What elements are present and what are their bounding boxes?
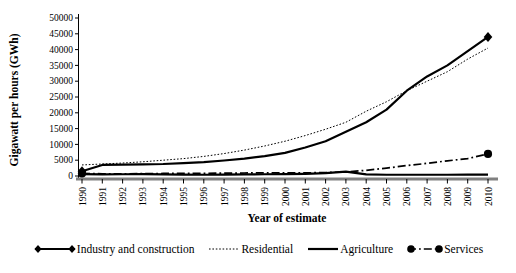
series-residential [82,48,488,165]
plot-area: 0500010000150002000025000300003500040000… [0,0,516,240]
legend-label-services: Services [444,243,483,255]
services-legend-circle-marker [407,245,415,253]
x-tick-label: 1995 [179,187,189,206]
x-tick-label: 2002 [321,187,331,206]
x-tick-label: 1998 [240,187,250,206]
x-tick-label: 1990 [78,187,88,206]
x-tick-label: 2009 [463,187,473,206]
legend-label-agriculture: Agriculture [340,243,393,255]
x-tick-label: 2007 [423,187,433,206]
x-tick-label: 1993 [138,187,148,206]
y-tick-label: 30000 [49,76,73,86]
y-tick-label: 10000 [49,140,73,150]
services-legend-dashdot-line-icon [406,243,444,255]
industry-and-construction-legend-diamond-marker [34,245,41,253]
series-services-circle-marker [484,150,492,158]
x-tick-label: 2006 [402,187,412,206]
legend-label-residential: Residential [241,243,293,255]
y-tick-label: 15000 [49,124,73,134]
legend: Industry and constructionResidentialAgri… [0,243,516,255]
series-industry-and-construction-diamond-marker [484,32,493,42]
residential-legend-dotted-line-icon [207,243,241,255]
series-agriculture-line [82,172,488,175]
x-tick-label: 2008 [443,187,453,206]
y-tick-labels: 0500010000150002000025000300003500040000… [49,13,78,181]
x-tick-label: 2001 [301,187,311,206]
x-tick-label: 1992 [118,187,128,206]
legend-item-services: Services [406,243,483,255]
chart-figure: Gigawatt per hours (GWh) 050001000015000… [0,0,516,273]
x-tick-label: 2004 [362,187,372,206]
y-tick-label: 50000 [49,13,73,23]
y-tick-label: 0 [68,171,73,181]
x-tick-label: 1994 [159,187,169,206]
x-axis-title: Year of estimate [0,212,516,224]
x-tick-label: 2000 [281,187,291,206]
x-tick-label: 1997 [220,187,230,206]
series-industry-and-construction [78,32,493,176]
legend-label-industry-and-construction: Industry and construction [77,243,195,255]
y-tick-label: 20000 [49,108,73,118]
series-industry-and-construction-line [82,37,488,171]
industry-and-construction-legend-line-icon [33,243,77,255]
legend-item-industry-and-construction: Industry and construction [33,243,195,255]
legend-item-agriculture: Agriculture [306,243,393,255]
series-residential-line [82,48,488,165]
y-tick-label: 25000 [49,92,73,102]
y-tick-label: 40000 [49,45,73,55]
x-tick-labels: 1990199119921993199419951996199719981999… [78,179,494,206]
x-tick-label: 2010 [484,187,494,206]
services-legend-circle-marker [435,245,443,253]
x-tick-label: 2005 [382,187,392,206]
x-tick-label: 2003 [341,187,351,206]
series-agriculture [82,172,488,175]
x-tick-label: 1996 [199,187,209,206]
y-tick-label: 35000 [49,61,73,71]
agriculture-legend-line-icon [306,243,340,255]
x-tick-label: 1999 [260,187,270,206]
x-tick-label: 1991 [98,187,108,206]
y-tick-label: 45000 [49,29,73,39]
legend-item-residential: Residential [207,243,293,255]
y-tick-label: 5000 [54,155,73,165]
industry-and-construction-legend-diamond-marker [68,245,75,253]
